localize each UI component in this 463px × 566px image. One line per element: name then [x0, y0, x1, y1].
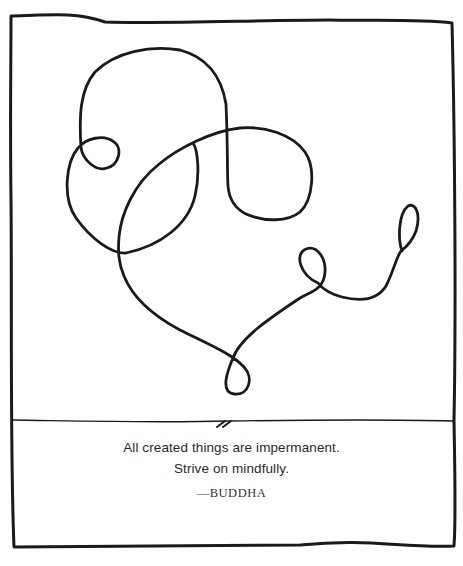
quote-line-1: All created things are impermanent. [0, 437, 463, 458]
quote-attribution: —BUDDHA [0, 482, 463, 504]
quote-block: All created things are impermanent. Stri… [0, 437, 463, 504]
divider-line [12, 420, 453, 422]
quote-line-2: Strive on mindfully. [0, 458, 463, 479]
continuous-line-drawing [67, 48, 418, 394]
